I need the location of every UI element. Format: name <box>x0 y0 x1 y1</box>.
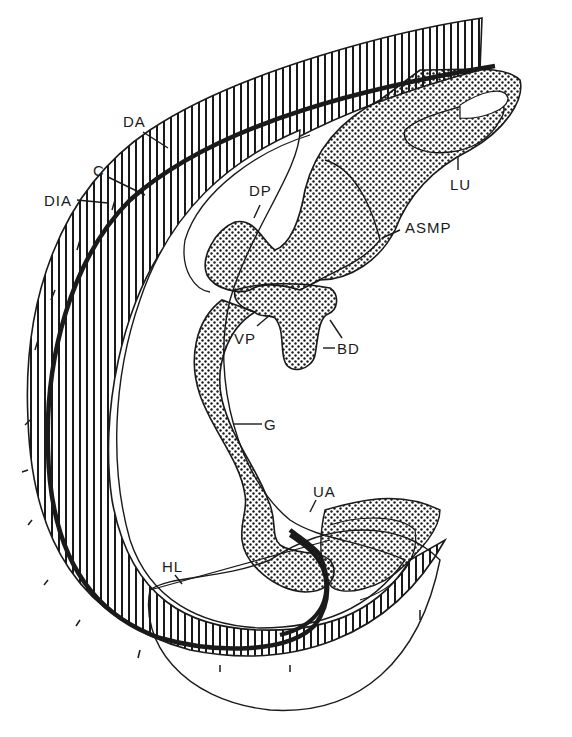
label-LU: LU <box>450 176 471 193</box>
embryo-diagram: DA C DIA DP LU ASMP VP BD G UA HL <box>0 0 572 737</box>
label-DP: DP <box>249 182 272 199</box>
label-DA: DA <box>123 113 146 130</box>
label-C: C <box>93 162 105 179</box>
stippled-pancreas-bileduct <box>235 284 337 370</box>
label-UA: UA <box>313 483 336 500</box>
label-DIA: DIA <box>44 192 72 209</box>
label-VP: VP <box>234 330 256 347</box>
label-HL: HL <box>162 558 183 575</box>
label-ASMP: ASMP <box>405 219 452 236</box>
label-BD: BD <box>337 340 360 357</box>
label-G: G <box>264 416 277 433</box>
stippled-cloaca <box>321 498 440 591</box>
